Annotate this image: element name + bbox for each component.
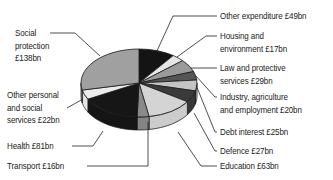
leader-defence xyxy=(194,113,217,151)
leader-other-personal xyxy=(67,99,83,108)
label-debt: Debt interest £25bn xyxy=(220,126,288,139)
label-other-personal: Other personaland socialservices £22bn xyxy=(7,89,60,127)
label-industry: Industry, agricultureand employment £20b… xyxy=(220,91,302,116)
leader-other-expenditure xyxy=(156,16,217,53)
label-health: Health £81bn xyxy=(7,140,54,153)
pie-slice-social-protection xyxy=(81,49,139,90)
label-social: Socialprotection£138bn xyxy=(15,27,49,65)
leader-social xyxy=(50,33,100,56)
leader-education xyxy=(178,132,217,166)
label-transport: Transport £16bn xyxy=(7,160,64,173)
label-other-expenditure: Other expenditure £49bn xyxy=(220,10,306,23)
leader-debt xyxy=(196,85,217,132)
pie-top xyxy=(81,49,197,117)
leader-housing xyxy=(177,36,217,57)
pie-side-transport xyxy=(137,116,149,130)
label-defence: Defence £27bn xyxy=(220,145,273,158)
label-housing: Housing andenvironment £17bn xyxy=(220,30,287,55)
label-education: Education £63bn xyxy=(220,160,279,173)
label-law: Law and protectiveservices £29bn xyxy=(220,62,286,87)
leader-health xyxy=(72,131,103,146)
